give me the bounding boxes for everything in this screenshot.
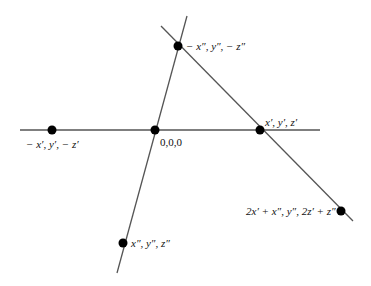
point-xpp [119,239,128,248]
label-neg-xp: − x′, y′, − z′ [26,138,79,150]
point-xp [256,126,265,135]
label-origin: 0,0,0 [160,136,182,148]
point-sum [337,207,346,216]
label-sum: 2x′ + x″, y″, 2z′ + z″ [246,205,336,217]
label-xp: x′, y′, z′ [265,116,297,128]
diagonal-line [161,26,353,221]
point-neg-xpp [174,42,183,51]
point-neg-xp [48,126,57,135]
label-neg-xpp: − x″, y″, − z″ [186,40,245,52]
point-origin [151,126,160,135]
diagram-canvas: − x″, y″, − z″ − x′, y′, − z′ 0,0,0 x′, … [0,0,371,286]
label-xpp: x″, y″, z″ [131,237,170,249]
